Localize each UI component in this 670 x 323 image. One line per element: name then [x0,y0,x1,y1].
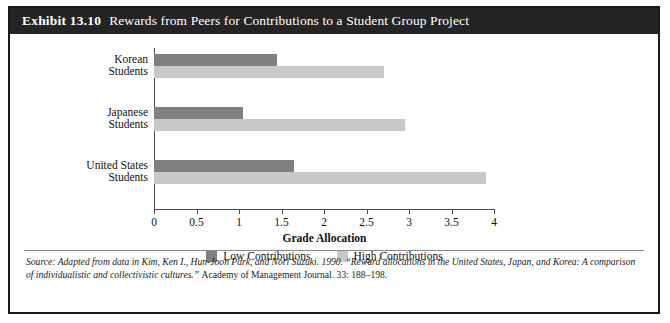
x-tick-mark [494,209,495,214]
x-tick-mark [367,209,368,214]
plot-bars-container: KoreanStudentsJapaneseStudentsUnited Sta… [154,48,494,208]
x-tick-mark [239,209,240,214]
exhibit-title: Rewards from Peers for Contributions to … [109,13,469,29]
category-label-line: Students [8,118,148,130]
bar-high-contributions [154,172,486,184]
x-tick-mark [324,209,325,214]
bar-group: United StatesStudents [154,160,494,186]
x-tick-mark [154,209,155,214]
source-note-journal: Academy of Management Journal. 33: 188–1… [202,269,388,280]
bar-high-contributions [154,119,405,131]
bar-low-contributions [154,160,294,172]
bar-group: JapaneseStudents [154,107,494,133]
x-axis-title: Grade Allocation [154,232,495,244]
x-tick-label: 4 [491,216,497,228]
x-tick-label: 2.5 [359,216,373,228]
x-tick-label: 1 [236,216,242,228]
bar-low-contributions [154,54,277,66]
exhibit-number: Exhibit 13.10 [22,13,101,29]
x-tick-label: 3 [406,216,412,228]
x-tick-mark [282,209,283,214]
x-tick-mark [409,209,410,214]
bar-group: KoreanStudents [154,54,494,80]
x-tick-mark [452,209,453,214]
category-label: United StatesStudents [8,159,148,183]
category-label-line: Students [8,65,148,77]
source-note: Source: Adapted from data in Kim, Ken I.… [26,256,642,281]
x-tick-label: 1.5 [274,216,288,228]
bar-low-contributions [154,107,243,119]
source-divider [24,250,644,251]
x-tick-label: 2 [321,216,327,228]
category-label-line: Japanese [8,106,148,118]
x-tick-mark [197,209,198,214]
x-tick-label: 0 [151,216,157,228]
x-tick-label: 3.5 [444,216,458,228]
x-tick-label: 0.5 [189,216,203,228]
exhibit-title-bar: Exhibit 13.10 Rewards from Peers for Con… [10,8,658,34]
category-label-line: Students [8,171,148,183]
exhibit-frame: Exhibit 13.10 Rewards from Peers for Con… [8,6,660,314]
category-label-line: Korean [8,53,148,65]
category-label-line: United States [8,159,148,171]
bar-high-contributions [154,66,384,78]
category-label: JapaneseStudents [8,106,148,130]
category-label: KoreanStudents [8,53,148,77]
